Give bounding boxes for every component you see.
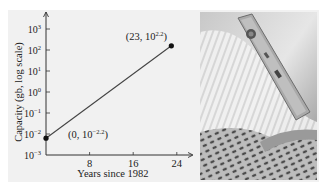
photo-illustration xyxy=(200,12,317,180)
y-axis-label: Capacity (gb, log scale) xyxy=(13,42,25,142)
y-tick-label: 10−3 xyxy=(24,149,41,161)
x-axis-label: Years since 1982 xyxy=(77,168,148,179)
x-tick-label: 24 xyxy=(172,158,183,169)
marks: (0, 10−2.2)(23, 102.2) xyxy=(43,30,174,141)
y-tick-label: 102 xyxy=(28,44,41,56)
series-line xyxy=(46,46,171,138)
data-point xyxy=(169,43,174,48)
chart: 8162410−310−210−1100101102103 (0, 10−2.2… xyxy=(0,0,200,192)
y-tick-label: 10−2 xyxy=(24,128,41,140)
y-tick-label: 103 xyxy=(28,23,41,35)
data-point xyxy=(43,136,48,141)
device-photo xyxy=(200,12,317,180)
y-tick-label: 100 xyxy=(28,86,41,98)
y-tick-label: 101 xyxy=(28,65,41,77)
y-tick-label: 10−1 xyxy=(24,107,41,119)
point-annotation: (23, 102.2) xyxy=(126,30,168,43)
point-annotation: (0, 10−2.2) xyxy=(68,128,108,141)
